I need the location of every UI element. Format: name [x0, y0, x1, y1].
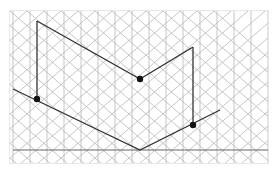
grid-line-diagonal-down — [10, 11, 268, 163]
app-root — [0, 0, 278, 173]
grid-line-diagonal-up — [10, 11, 268, 163]
grid-line-diagonal-up — [10, 11, 268, 123]
grid-line-diagonal-down — [10, 11, 268, 163]
grid-line-diagonal-up — [10, 11, 268, 163]
grid-line-diagonal-up — [10, 11, 268, 152]
grid-line-diagonal-down — [10, 11, 268, 163]
isometric-grid-canvas[interactable] — [10, 11, 268, 163]
grid-line-diagonal-up — [10, 11, 268, 163]
grid-line-diagonal-up — [10, 11, 268, 163]
grid-line-diagonal-up — [10, 11, 268, 64]
grid-line-diagonal-up — [10, 11, 268, 163]
grid-line-diagonal-up — [10, 11, 268, 163]
grid-line-diagonal-down — [10, 11, 268, 163]
grid-lines — [10, 11, 268, 163]
grid-layer — [10, 11, 268, 163]
grid-line-diagonal-down — [10, 11, 268, 163]
grid-line-diagonal-up — [10, 11, 268, 34]
grid-line-diagonal-down — [10, 11, 268, 163]
